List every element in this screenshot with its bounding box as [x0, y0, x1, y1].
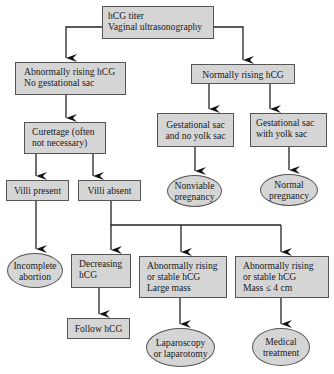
node-text: or stable hCG	[243, 271, 323, 282]
node-text: Normally rising hCG	[202, 69, 284, 80]
node-text: Abnormally rising	[243, 260, 323, 271]
node-text: abortion	[19, 271, 51, 282]
follow-hcg-box: Follow hCG	[67, 318, 130, 339]
large-mass-box: Abnormally rising or stable hCG Large ma…	[139, 256, 227, 298]
node-text: Decreasing	[79, 258, 125, 269]
node-text: pregnancy	[269, 190, 309, 201]
sac-no-yolk-box: Gestational sac and no yolk sac	[157, 113, 234, 147]
node-text: Follow hCG	[75, 323, 123, 334]
node-text: or stable hCG	[147, 271, 221, 282]
node-text: Curettage (often	[32, 126, 100, 137]
node-text: Vaginal ultrasonography	[108, 21, 208, 32]
normal-pregnancy-ellipse: Normal pregnancy	[260, 174, 318, 206]
medical-treatment-ellipse: Medical treatment	[252, 328, 310, 366]
small-mass-box: Abnormally rising or stable hCG Mass ≤ 4…	[235, 256, 329, 298]
node-text: and no yolk sac	[166, 130, 226, 141]
node-text: Abnormally rising hCG	[24, 66, 120, 77]
nonviable-pregnancy-ellipse: Nonviable pregnancy	[167, 175, 222, 207]
node-text: hCG	[79, 269, 125, 280]
node-text: No gestational sac	[24, 77, 120, 88]
node-text: Abnormally rising	[147, 260, 221, 271]
node-text: Normal	[274, 179, 303, 190]
node-text: Nonviable	[175, 180, 215, 191]
villi-absent-box: Villi absent	[78, 180, 141, 201]
node-text: Medical	[265, 336, 296, 347]
abnormally-rising-no-sac-box: Abnormally rising hCG No gestational sac	[15, 62, 126, 95]
villi-present-box: Villi present	[6, 180, 69, 201]
node-text: Gestational sac	[256, 117, 321, 128]
node-text: Villi present	[14, 185, 61, 196]
node-text: Incomplete	[13, 260, 56, 271]
node-text: Gestational sac	[166, 119, 224, 130]
hcg-titer-ultrasonography-box: hCG titer Vaginal ultrasonography	[102, 6, 214, 39]
node-text: Mass ≤ 4 cm	[243, 282, 323, 293]
laparoscopy-ellipse: Laparoscopy or laparotomy	[146, 328, 215, 367]
curettage-box: Curettage (often not necessary)	[24, 122, 106, 154]
normally-rising-box: Normally rising hCG	[191, 64, 295, 84]
node-text: Laparoscopy	[156, 337, 206, 348]
node-text: with yolk sac	[256, 128, 321, 139]
decreasing-hcg-box: Decreasing hCG	[71, 254, 131, 288]
incomplete-abortion-ellipse: Incomplete abortion	[7, 253, 63, 288]
node-text: not necessary)	[32, 137, 100, 148]
node-text: pregnancy	[175, 191, 215, 202]
node-text: hCG titer	[108, 10, 208, 21]
sac-with-yolk-box: Gestational sac with yolk sac	[250, 113, 327, 147]
node-text: Large mass	[147, 282, 221, 293]
node-text: Villi absent	[88, 185, 132, 196]
node-text: or laparotomy	[153, 348, 207, 359]
node-text: treatment	[263, 347, 299, 358]
